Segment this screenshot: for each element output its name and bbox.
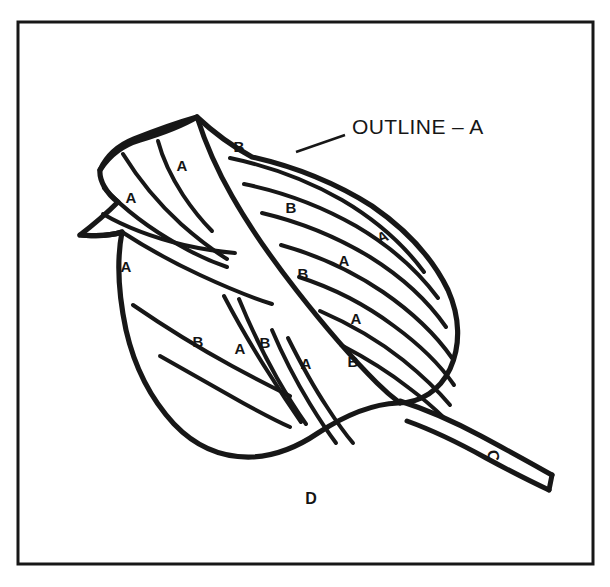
veins-right-group: [230, 158, 454, 417]
vein-label-b4: B: [193, 333, 204, 350]
vein-left-lower-1: [122, 232, 272, 304]
vein-label-a6: A: [351, 310, 362, 327]
vein-label-a4: A: [374, 227, 391, 247]
vein-left-lower-4: [224, 296, 301, 422]
stem-edge-2: [407, 421, 549, 490]
vein-left-lower-7: [288, 338, 353, 443]
figure-root: OUTLINE – A AAABBAABABABAB CD: [0, 0, 610, 587]
region-label-below-leaf: D: [305, 490, 317, 507]
region-labels-group: CD: [305, 448, 503, 507]
vein-label-a7: A: [235, 340, 246, 357]
vein-label-a5: A: [339, 252, 350, 269]
outline-callout-label: OUTLINE – A: [352, 115, 484, 138]
vein-label-a3: A: [121, 258, 132, 275]
vein-label-a2: A: [126, 189, 137, 206]
border-frame: [18, 22, 593, 564]
stem-edge-3: [549, 475, 552, 490]
vein-label-a8: A: [301, 355, 312, 372]
vein-label-b1: B: [234, 138, 245, 155]
vein-label-b6: B: [348, 353, 359, 370]
stem-edge-1: [400, 401, 552, 475]
vein-label-b2: B: [286, 199, 297, 216]
leaf-diagram-svg: OUTLINE – A AAABBAABABABAB CD: [0, 0, 610, 587]
region-label-stem: C: [484, 448, 503, 463]
vein-label-b3: B: [298, 265, 309, 282]
vein-left-upper-1: [158, 141, 212, 231]
leaf-stem-group: [400, 401, 552, 490]
vein-label-b5: B: [260, 334, 271, 351]
veins-left-lower-group: [122, 232, 353, 443]
callout-leader-line: [296, 135, 345, 152]
vein-label-a1: A: [177, 157, 188, 174]
